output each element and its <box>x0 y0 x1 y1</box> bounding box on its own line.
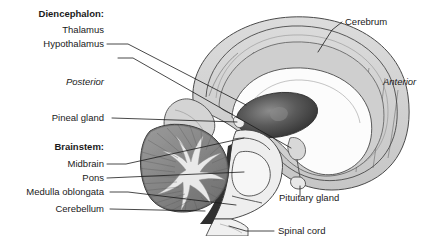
label-medulla-oblongata: Medulla oblongata <box>26 186 104 197</box>
orientation-posterior: Posterior <box>66 76 105 87</box>
label-midbrain: Midbrain <box>68 158 104 169</box>
brain-anatomy-figure: Diencephalon: Thalamus Hypothalamus Post… <box>0 0 436 236</box>
label-spinal-cord: Spinal cord <box>278 225 326 236</box>
pituitary-gland-body <box>291 177 306 189</box>
cerebellum-structure <box>137 124 229 214</box>
orientation-anterior: Anterior <box>382 76 417 87</box>
label-pons: Pons <box>82 172 104 183</box>
label-hypothalamus: Hypothalamus <box>43 38 104 49</box>
group-label-diencephalon: Diencephalon: <box>39 8 104 19</box>
label-cerebellum: Cerebellum <box>55 203 104 214</box>
label-thalamus: Thalamus <box>62 24 104 35</box>
label-pituitary-gland: Pituitary gland <box>279 192 339 203</box>
group-label-brainstem: Brainstem: <box>54 141 104 152</box>
label-pineal-gland: Pineal gland <box>52 112 104 123</box>
label-cerebrum: Cerebrum <box>345 16 387 27</box>
